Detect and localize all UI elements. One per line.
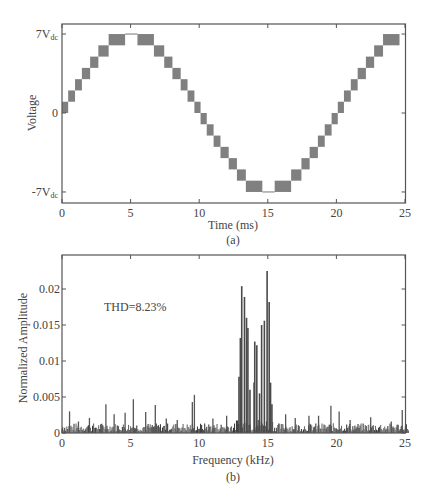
level-block (164, 57, 172, 68)
plot-frame (62, 24, 406, 203)
level-block (344, 90, 351, 101)
level-block (351, 79, 358, 90)
x-tick-label: 5 (128, 436, 134, 450)
y-tick-label: -7Vdc (32, 185, 59, 200)
x-axis-ticks: 0510152025 (59, 24, 411, 220)
y-tick-label: 0.01 (39, 354, 60, 368)
x-tick-label: 25 (399, 206, 411, 220)
voltage-waveform-plot: 0510152025 7Vdc0-7Vdc Time (ms) (a) Volt… (25, 24, 411, 247)
level-block (318, 136, 325, 147)
panel-caption: (a) (226, 233, 239, 247)
level-block (201, 113, 207, 124)
x-tick-label: 20 (330, 206, 342, 220)
thd-annotation: THD=8.23% (104, 300, 166, 314)
y-axis-label: Voltage (25, 95, 39, 131)
x-axis-label: Frequency (kHz) (192, 453, 274, 467)
spectrum-bars (63, 271, 409, 433)
y-axis-label: Normalized Amplitude (16, 293, 30, 403)
x-tick-label: 15 (262, 206, 274, 220)
level-block (291, 169, 301, 180)
level-block (207, 124, 214, 135)
level-block (310, 147, 318, 158)
x-axis-ticks: 0510152025 (59, 255, 411, 450)
level-block (82, 68, 90, 79)
level-block (188, 90, 195, 101)
level-block (220, 147, 228, 158)
plot-frame (62, 255, 406, 433)
level-block (181, 79, 188, 90)
y-axis-ticks: 7Vdc0-7Vdc (32, 27, 406, 200)
level-block (246, 181, 262, 192)
x-tick-label: 10 (193, 206, 205, 220)
level-block (237, 169, 246, 180)
x-tick-label: 10 (193, 436, 205, 450)
y-tick-label: 0 (52, 106, 58, 120)
panel-caption: (b) (226, 470, 240, 484)
staircase-waveform (62, 34, 400, 192)
y-tick-label: 7Vdc (36, 27, 59, 42)
level-block (137, 34, 153, 45)
level-block (301, 158, 309, 169)
x-tick-label: 25 (399, 436, 411, 450)
level-block (275, 181, 291, 192)
y-axis-ticks: 00.0050.010.0150.02 (33, 282, 406, 440)
level-block (98, 45, 108, 56)
y-tick-label: 0 (54, 426, 60, 440)
level-block (194, 102, 200, 113)
y-tick-label: 0.015 (33, 318, 60, 332)
harmonic-spectrum-plot: 0510152025 00.0050.010.0150.02 THD=8.23%… (16, 255, 411, 484)
level-block (383, 34, 399, 45)
y-tick-label: 0.005 (33, 390, 60, 404)
level-block (332, 113, 338, 124)
level-block (172, 68, 180, 79)
level-block (338, 102, 344, 113)
level-block (62, 102, 68, 113)
x-tick-label: 5 (128, 206, 134, 220)
x-tick-label: 0 (59, 206, 65, 220)
level-block (90, 57, 98, 68)
x-axis-label: Time (ms) (208, 218, 258, 232)
level-block (68, 90, 75, 101)
level-block (75, 79, 82, 90)
x-tick-label: 20 (330, 436, 342, 450)
level-block (229, 158, 237, 169)
y-tick-label: 0.02 (39, 282, 60, 296)
level-block (358, 68, 366, 79)
figure: 0510152025 7Vdc0-7Vdc Time (ms) (a) Volt… (0, 0, 428, 503)
level-block (154, 45, 164, 56)
x-tick-label: 15 (262, 436, 274, 450)
level-block (109, 34, 125, 45)
level-block (366, 57, 374, 68)
level-block (325, 124, 332, 135)
level-block (374, 45, 383, 56)
level-block (214, 136, 221, 147)
